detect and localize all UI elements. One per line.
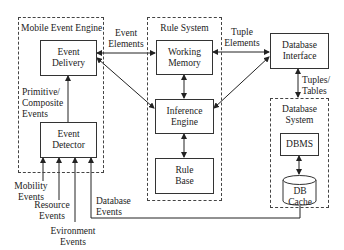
tuples-tables-label: Tuples/ Tables [302, 75, 336, 97]
resource-events-label: Resource Events [32, 200, 72, 222]
tuple-elements-label: Tuple Elements [222, 27, 262, 49]
architecture-diagram: Mobile Event Engine Rule System Database… [0, 0, 344, 250]
db-cache-label: DB Cache [284, 186, 316, 208]
inference-engine-label: Inference Engine [160, 106, 210, 128]
dbms-box: DBMS [280, 133, 319, 156]
database-events-label: Database Events [96, 196, 136, 218]
database-interface-label: Database Interface [275, 40, 325, 62]
event-detector-box: Event Detector [40, 122, 97, 158]
inference-engine-box: Inference Engine [155, 99, 214, 134]
dbms-label: DBMS [286, 139, 313, 150]
database-interface-box: Database Interface [270, 33, 329, 69]
environment-events-label: Evironment Events [48, 226, 98, 248]
rule-base-box: Rule Base [155, 158, 214, 194]
rule-system-label: Rule System [147, 23, 222, 34]
working-memory-box: Working Memory [156, 40, 213, 75]
rule-base-label: Rule Base [170, 165, 200, 187]
event-delivery-label: Event Delivery [49, 47, 89, 69]
interface-inference-arrow [214, 57, 269, 108]
event-delivery-box: Event Delivery [40, 40, 97, 76]
event-elements-label: Event Elements [106, 28, 146, 50]
event-detector-label: Event Detector [46, 129, 91, 151]
delivery-inference-arrow [97, 58, 154, 108]
primitive-composite-events-label: Primitive/ Composite Events [22, 87, 66, 120]
database-system-label: Database System [277, 104, 322, 126]
working-memory-label: Working Memory [162, 47, 207, 69]
mobile-event-engine-label: Mobile Event Engine [21, 23, 101, 34]
